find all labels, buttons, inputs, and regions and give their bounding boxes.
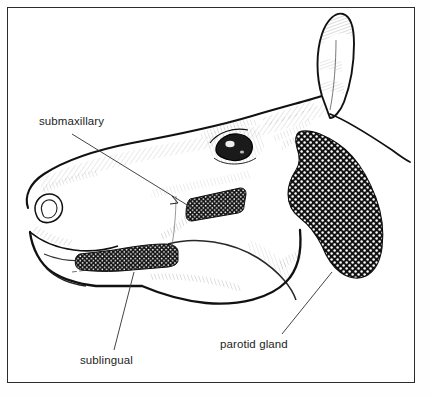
parotid-shape [288, 131, 383, 278]
eye-highlight [225, 141, 234, 147]
nostril-inner [41, 200, 57, 218]
leader-parotid [282, 272, 332, 334]
figure-page: submaxillary sublingual parotid gland [0, 0, 430, 397]
eye-highlight-small [240, 151, 244, 154]
label-sublingual: sublingual [80, 354, 133, 366]
label-submaxillary: submaxillary [39, 115, 104, 127]
horse-head-illustration [0, 0, 430, 397]
label-parotid-gland: parotid gland [220, 338, 288, 350]
